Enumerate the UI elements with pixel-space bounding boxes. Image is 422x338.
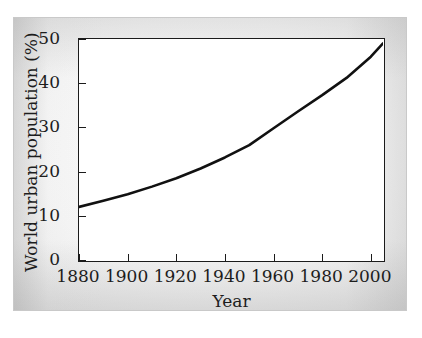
plot-area [78,38,385,262]
x-axis-tick [274,254,275,261]
y-axis-title: World urban population (%) [21,48,41,272]
y-axis-tick [79,39,86,40]
x-axis-title: Year [78,291,385,311]
y-axis-tick [79,127,86,128]
x-axis-tick-label: 1980 [300,266,343,286]
y-axis-tick [79,216,86,217]
x-axis-tick-label: 1940 [202,266,245,286]
y-axis-tick [79,83,86,84]
y-axis-tick [79,172,86,173]
x-axis-tick-label: 2000 [348,266,391,286]
x-axis-tick [322,254,323,261]
y-axis-tick [79,260,86,261]
x-axis-tick-label: 1900 [105,266,148,286]
y-axis-tick-label: 10 [38,205,60,225]
x-axis-tick [176,254,177,261]
x-axis-tick [225,254,226,261]
y-axis-tick-label: 30 [38,116,60,136]
line-series-canvas [79,39,383,260]
x-axis-tick [128,254,129,261]
y-axis-tick-label: 50 [38,28,60,48]
x-axis-tick [79,254,80,261]
x-axis-tick [371,254,372,261]
y-axis-tick-label: 40 [38,72,60,92]
y-axis-tick-label: 20 [38,161,60,181]
x-axis-tick-label: 1880 [56,266,99,286]
x-axis-tick-label: 1960 [251,266,294,286]
x-axis-tick-labels: 1880190019201940196019802000 [78,266,385,290]
x-axis-tick-label: 1920 [154,266,197,286]
series-line-world-urban-population [79,43,383,207]
figure: 01020304050 1880190019201940196019802000… [0,0,422,338]
